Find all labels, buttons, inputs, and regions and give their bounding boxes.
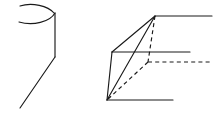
right-figure-group [107,16,212,100]
lower-ellipse-arc [19,13,55,24]
front-slant-edge [107,16,155,100]
upper-ellipse-arc [20,4,54,13]
line-drawing-svg [0,0,222,121]
top-left-slant-edge [112,16,155,52]
drawing-canvas [0,0,222,121]
left-figure-group [19,4,55,108]
hidden-diagonal-edge [107,62,148,100]
cone-slant-line [20,57,55,108]
